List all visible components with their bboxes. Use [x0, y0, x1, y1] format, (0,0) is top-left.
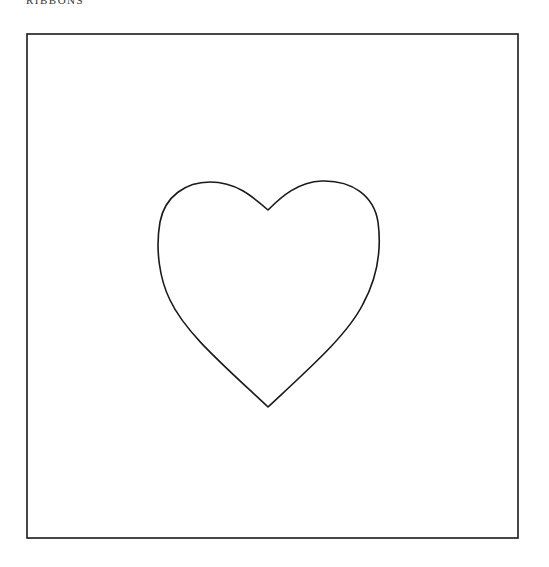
template-figure	[0, 0, 549, 567]
heart-outline-icon	[158, 181, 379, 407]
